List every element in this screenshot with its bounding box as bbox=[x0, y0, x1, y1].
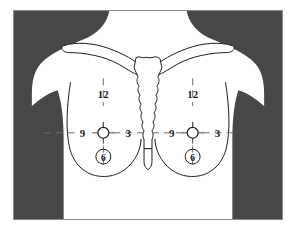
chest-clock-diagram: 12 3 6 9 12 3 6 9 bbox=[14, 11, 282, 219]
clock-label-left-6: 6 bbox=[101, 153, 106, 163]
clock-label-left-12: 12 bbox=[98, 88, 109, 100]
figure-frame: 12 3 6 9 12 3 6 9 bbox=[13, 10, 283, 220]
clock-label-right-9: 9 bbox=[169, 127, 175, 139]
xiphoid-process bbox=[144, 149, 152, 170]
clock-label-right-3: 3 bbox=[215, 127, 221, 139]
clock-label-left-9: 9 bbox=[80, 127, 86, 139]
clock-label-left-3: 3 bbox=[125, 127, 131, 139]
nipple-right bbox=[187, 127, 198, 138]
figure-page: 12 3 6 9 12 3 6 9 bbox=[0, 0, 296, 229]
clock-label-right-12: 12 bbox=[187, 88, 198, 100]
nipple-left bbox=[98, 127, 109, 138]
clock-label-right-6: 6 bbox=[190, 153, 195, 163]
